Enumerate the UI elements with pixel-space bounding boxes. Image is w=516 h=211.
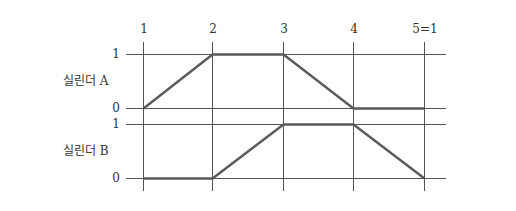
step-label-3: 3 (280, 23, 288, 35)
cylinder-b-tick-high: 1 (100, 118, 120, 130)
cylinder-b-label: 실린더 B (63, 145, 109, 157)
step-label-4: 4 (350, 23, 358, 35)
displacement-step-diagram (0, 0, 516, 211)
grid-lines (126, 42, 446, 191)
step-label-5: 5=1 (412, 23, 437, 35)
cylinder-a-tick-low: 0 (100, 102, 120, 114)
cylinder-b-tick-low: 0 (100, 172, 120, 184)
cylinder-a-tick-high: 1 (100, 48, 120, 60)
step-label-1: 1 (140, 23, 148, 35)
cylinder-a-label: 실린더 A (63, 75, 108, 87)
step-label-2: 2 (209, 23, 217, 35)
